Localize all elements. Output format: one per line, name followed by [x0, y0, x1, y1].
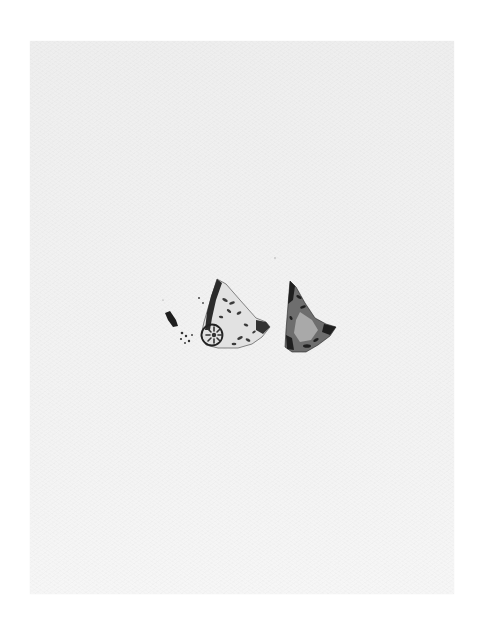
speck-large [165, 311, 178, 327]
right-fragment [285, 281, 336, 352]
left-fragment [201, 279, 270, 348]
speck [181, 332, 184, 335]
speck [191, 334, 193, 336]
speck [198, 297, 200, 299]
speck [162, 299, 163, 300]
speck [184, 342, 186, 344]
fragments-scene [0, 0, 478, 631]
speck [188, 340, 190, 342]
speck [202, 302, 204, 304]
speck [180, 338, 182, 340]
speck [274, 257, 275, 258]
speck [185, 335, 187, 337]
